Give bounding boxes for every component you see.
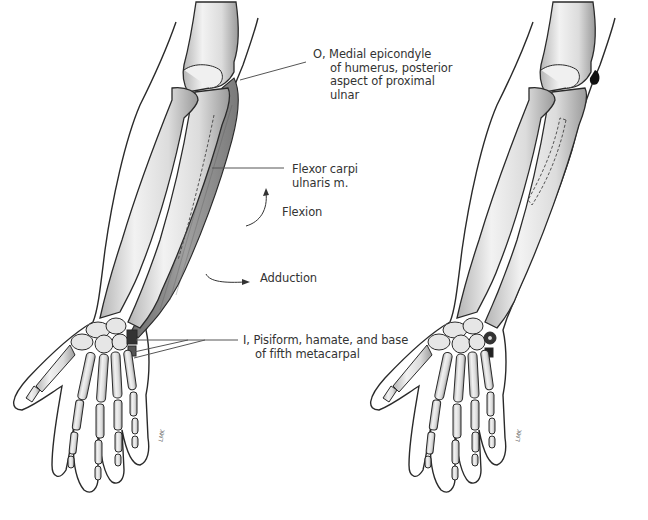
left-finger-bones <box>26 345 138 480</box>
origin-label: O, Medial epicondyle of humerus, posteri… <box>313 48 452 102</box>
left-arm-illustration <box>14 2 306 492</box>
insertion-leader-line-3 <box>134 340 205 358</box>
adduction-label: Adduction <box>260 272 317 286</box>
insertion-label-line-1: I, Pisiform, hamate, and base <box>243 334 408 348</box>
origin-label-line-4: ulnar <box>313 89 452 103</box>
muscle-label-line-2: ulnaris m. <box>292 177 358 191</box>
origin-leader-line <box>240 62 306 80</box>
flexion-label: Flexion <box>282 206 322 220</box>
muscle-label: Flexor carpi ulnaris m. <box>292 163 358 190</box>
flexion-arrow-icon <box>246 192 266 226</box>
origin-label-line-3: aspect of proximal <box>313 75 452 89</box>
insertion-label-line-2: of fifth metacarpal <box>243 348 408 362</box>
insertion-label: I, Pisiform, hamate, and base of fifth m… <box>243 334 408 361</box>
origin-label-line-1: O, Medial epicondyle <box>313 48 452 62</box>
muscle-label-line-1: Flexor carpi <box>292 163 358 177</box>
right-finger-bones <box>383 345 495 480</box>
adduction-arrow-icon <box>206 274 245 282</box>
origin-label-line-2: of humerus, posterior <box>313 62 452 76</box>
